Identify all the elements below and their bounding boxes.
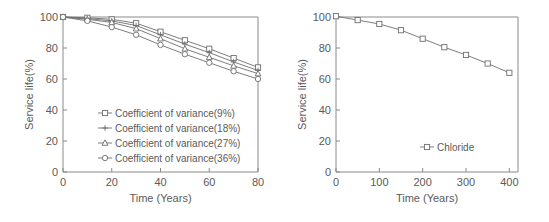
data-point-square-0-8 [507,70,512,75]
data-point-square-0-7 [485,61,490,66]
data-point-square-0-4 [420,36,425,41]
legend-label-0: Chloride [437,142,475,153]
y-tick-label-0: 0 [325,166,331,178]
y-tick-label-80: 80 [46,42,58,54]
y-tick-label-60: 60 [46,73,58,85]
y-axis-title: Service life(%) [23,59,35,130]
data-point-square-legend-0 [424,144,429,149]
x-tick-label-300: 300 [457,176,475,188]
x-tick-label-60: 60 [203,176,215,188]
right-chart-svg: 0204060801000100200300400Time (Years)Ser… [275,0,549,222]
data-point-circle-3-3 [133,32,138,37]
y-tick-label-100: 100 [40,11,58,23]
data-point-circle-3-0 [60,14,65,19]
y-tick-label-20: 20 [319,135,331,147]
legend-label-2: Coefficient of variance(27%) [115,138,240,149]
data-point-square-0-3 [398,28,403,33]
y-tick-label-100: 100 [313,11,331,23]
x-axis-title: Time (Years) [129,192,191,204]
x-tick-label-400: 400 [500,176,518,188]
data-point-square-0-6 [463,52,468,57]
data-point-circle-3-7 [231,69,236,74]
chart-panel-chloride: 0204060801000100200300400Time (Years)Ser… [275,0,549,222]
left-chart-svg: 020406080100020406080Time (Years)Service… [0,0,274,222]
y-tick-label-40: 40 [319,104,331,116]
x-tick-label-20: 20 [106,176,118,188]
y-tick-label-60: 60 [319,73,331,85]
y-tick-label-0: 0 [52,166,58,178]
data-point-circle-3-4 [158,42,163,47]
x-axis-title: Time (Years) [396,192,458,204]
y-tick-label-80: 80 [319,42,331,54]
series-line-0 [336,16,509,73]
x-tick-label-80: 80 [252,176,264,188]
legend-label-1: Coefficient of variance(18%) [115,123,240,134]
series-0 [333,14,512,76]
data-point-circle-3-6 [207,60,212,65]
data-point-circle-legend-3 [102,155,107,160]
data-point-square-0-1 [355,18,360,23]
data-point-circle-3-8 [255,76,260,81]
x-tick-label-100: 100 [370,176,388,188]
legend-label-0: Coefficient of variance(9%) [115,108,235,119]
chart-panel-coefficient-of-variance: 020406080100020406080Time (Years)Service… [0,0,274,222]
y-tick-label-20: 20 [46,135,58,147]
x-tick-label-200: 200 [413,176,431,188]
x-tick-label-0: 0 [333,176,339,188]
legend: Coefficient of variance(9%)Coefficient o… [98,108,240,164]
y-axis-title: Service life(%) [296,59,308,130]
legend: Chloride [420,142,475,153]
data-point-square-0-2 [377,21,382,26]
x-tick-label-40: 40 [154,176,166,188]
data-point-circle-3-2 [109,24,114,29]
y-tick-label-40: 40 [46,104,58,116]
two-panel-line-chart-figure: 020406080100020406080Time (Years)Service… [0,0,549,222]
data-point-square-legend-0 [102,110,107,115]
data-point-cross-legend-1 [102,125,108,131]
data-point-circle-3-5 [182,52,187,57]
series-3 [60,14,260,81]
data-point-square-0-0 [333,14,338,19]
x-tick-label-0: 0 [60,176,66,188]
data-point-square-0-5 [442,45,447,50]
data-point-circle-3-1 [85,18,90,23]
legend-label-3: Coefficient of variance(36%) [115,153,240,164]
